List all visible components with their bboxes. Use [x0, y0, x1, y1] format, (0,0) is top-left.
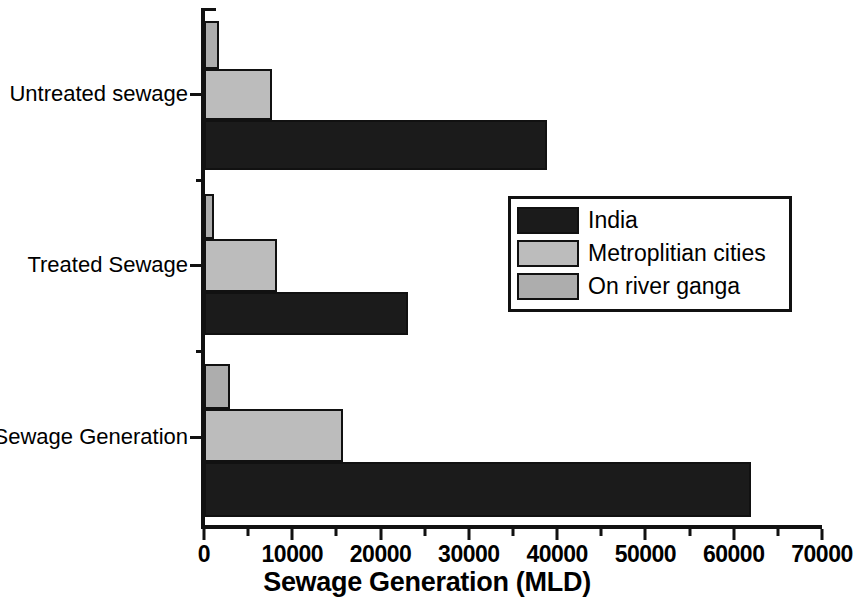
x-axis-tick — [821, 529, 824, 540]
x-axis-minor-tick — [335, 529, 338, 536]
legend-swatch-on-river-ganga — [517, 273, 579, 300]
y-axis-label-sewage-generation: Sewage Generation — [0, 424, 188, 450]
y-axis-minor-tick — [196, 179, 204, 182]
x-axis-minor-tick — [600, 529, 603, 536]
bar-chart: Untreated sewageTreated SewageSewage Gen… — [0, 0, 854, 605]
x-axis-tick-label: 60000 — [703, 541, 764, 568]
bar-sewage-generation-on-river-ganga — [204, 364, 230, 409]
bar-untreated-sewage-on-river-ganga — [204, 21, 219, 69]
x-axis-tick — [556, 529, 559, 540]
x-axis-tick-label: 70000 — [791, 541, 852, 568]
x-axis-tick-label: 10000 — [262, 541, 323, 568]
x-axis-tick — [203, 529, 206, 540]
x-axis-tick — [467, 529, 470, 540]
y-axis-tick — [190, 264, 204, 267]
x-axis-title: Sewage Generation (MLD) — [0, 567, 854, 598]
bar-treated-sewage-on-river-ganga — [204, 194, 214, 239]
legend-item-metropolitan-cities[interactable]: Metroplitian cities — [517, 237, 783, 270]
legend-swatch-india — [517, 207, 579, 234]
legend-item-on-river-ganga[interactable]: On river ganga — [517, 270, 783, 303]
chart-legend: India Metroplitian cities On river ganga — [508, 196, 792, 312]
x-axis-tick-label: 50000 — [615, 541, 676, 568]
y-axis-label-treated-sewage: Treated Sewage — [27, 252, 188, 278]
x-axis-tick — [291, 529, 294, 540]
x-axis-minor-tick — [688, 529, 691, 536]
x-axis-tick — [732, 529, 735, 540]
x-axis-tick — [379, 529, 382, 540]
x-axis-tick-label: 20000 — [350, 541, 411, 568]
bar-untreated-sewage-metroplitian-cities — [204, 69, 272, 120]
x-axis-minor-tick — [423, 529, 426, 536]
x-axis-tick-label: 40000 — [526, 541, 587, 568]
bar-untreated-sewage-india — [204, 120, 547, 170]
x-axis-tick-label: 0 — [198, 541, 210, 568]
bar-sewage-generation-metroplitian-cities — [204, 409, 343, 462]
x-axis-tick-label: 30000 — [438, 541, 499, 568]
bar-sewage-generation-india — [204, 462, 751, 517]
x-axis-minor-tick — [247, 529, 250, 536]
y-axis-tick — [190, 93, 204, 96]
legend-label-india: India — [588, 209, 638, 232]
bar-treated-sewage-india — [204, 292, 408, 335]
x-axis-minor-tick — [776, 529, 779, 536]
legend-swatch-metropolitan-cities — [517, 240, 579, 267]
x-axis-minor-tick — [512, 529, 515, 536]
x-axis-tick — [644, 529, 647, 540]
legend-label-on-river-ganga: On river ganga — [588, 275, 740, 298]
legend-item-india[interactable]: India — [517, 204, 783, 237]
legend-label-metropolitan-cities: Metroplitian cities — [588, 242, 766, 265]
y-axis-minor-tick — [196, 350, 204, 353]
y-axis-tick — [190, 436, 204, 439]
y-axis-bottom-cap — [204, 526, 216, 529]
bar-treated-sewage-metroplitian-cities — [204, 239, 277, 292]
y-axis-label-untreated-sewage: Untreated sewage — [9, 81, 188, 107]
y-axis-top-cap — [204, 8, 216, 11]
